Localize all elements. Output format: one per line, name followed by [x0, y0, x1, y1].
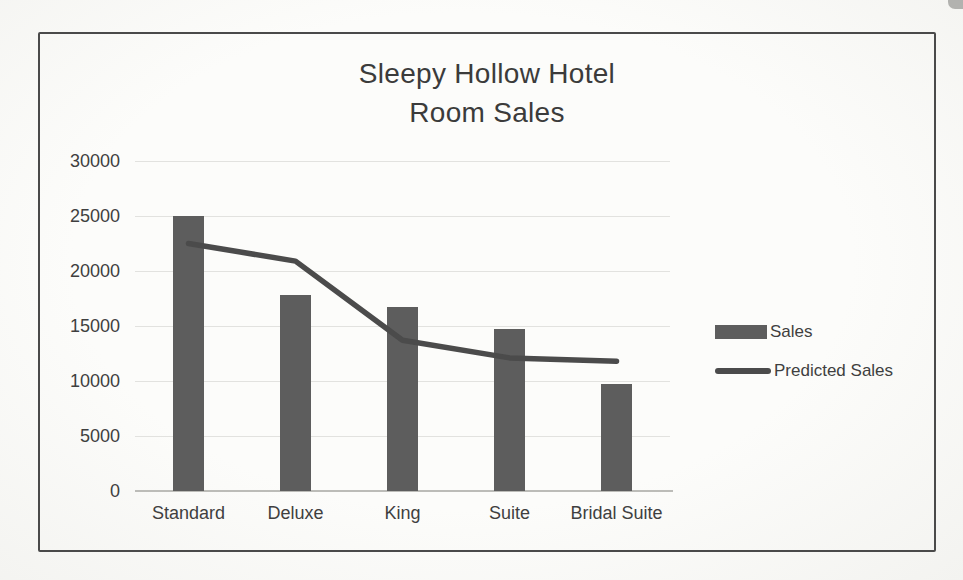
- scanned-chart-page: Sleepy Hollow Hotel Room Sales Sales Pre…: [0, 0, 963, 580]
- chart-frame: Sleepy Hollow Hotel Room Sales Sales Pre…: [38, 32, 936, 552]
- predicted-sales-line: [40, 34, 934, 550]
- scan-artifact: [948, 0, 963, 9]
